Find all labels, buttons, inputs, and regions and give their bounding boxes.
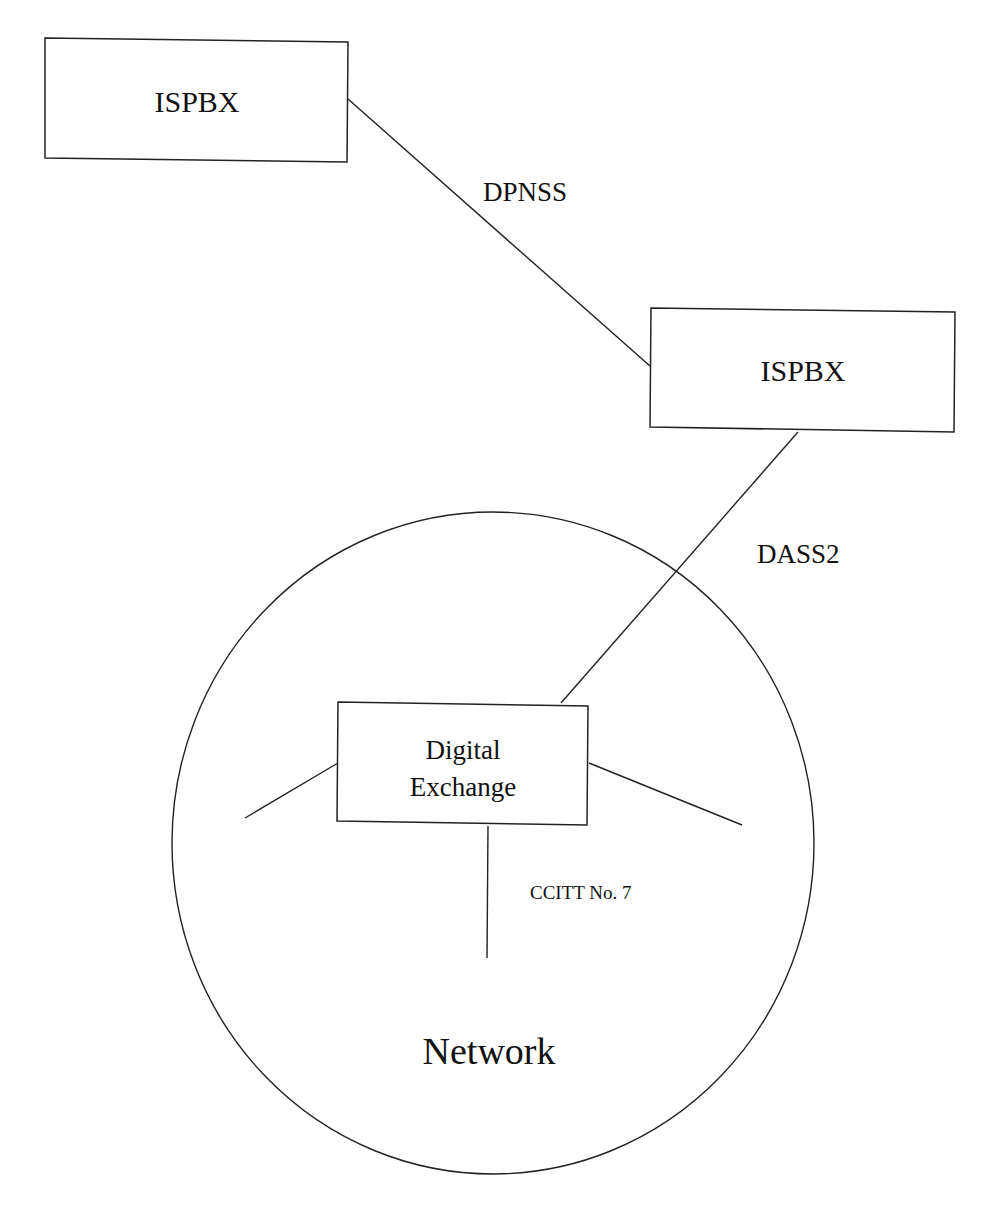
digital-exchange-label-line1: Digital [426,735,501,765]
network-label: Network [423,1030,556,1072]
ccitt-link [487,826,488,958]
digital-exchange-label-line2: Exchange [410,772,516,802]
dass2-label: DASS2 [757,539,840,569]
digital-exchange-node: Digital Exchange [337,702,588,825]
ispbx-top-label: ISPBX [154,85,239,118]
dpnss-link [348,99,650,366]
ispbx-right-node: ISPBX [650,308,955,432]
exchange-spoke-right [589,763,742,825]
ccitt-label: CCITT No. 7 [530,882,632,903]
dpnss-label: DPNSS [483,177,567,207]
exchange-spoke-left [245,763,338,818]
network-boundary [172,512,814,1174]
ispbx-top-node: ISPBX [45,38,348,162]
ispbx-right-label: ISPBX [760,354,845,387]
network-diagram: ISPBX ISPBX Digital Exchange DPNSS DASS2… [0,0,995,1209]
